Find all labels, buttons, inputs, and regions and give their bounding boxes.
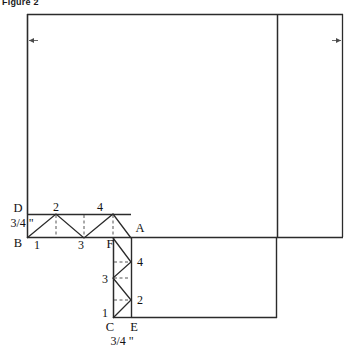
hband-zigzag-path (27, 214, 131, 238)
figure-root: Figure 2 (0, 0, 355, 353)
hband-top-number-1: 4 (97, 200, 103, 214)
label-point-A: A (135, 221, 144, 235)
hband-bottom-number-0: 1 (34, 238, 40, 252)
vband-left-number-0: 3 (102, 272, 108, 286)
label-point-C: C (106, 320, 114, 334)
hband-bottom-number-1: 3 (78, 238, 84, 252)
diagram-canvas: D B A F C E 2 4 1 3 4 2 3 1 3/4 " 3/4 " (0, 0, 355, 353)
label-point-E: E (130, 320, 138, 334)
label-point-B: B (14, 236, 22, 250)
vband-left-number-1: 1 (102, 306, 108, 320)
right-dimension-arrow (332, 38, 341, 43)
vband-right-number-1: 2 (137, 293, 143, 307)
label-point-F: F (107, 237, 114, 251)
left-dimension-label: 3/4 " (10, 216, 33, 230)
label-point-D: D (13, 201, 22, 215)
bottom-dimension-label: 3/4 " (110, 334, 133, 348)
vband-right-number-0: 4 (137, 255, 143, 269)
hband-top-number-0: 2 (53, 200, 59, 214)
left-dimension-arrow (29, 38, 38, 43)
